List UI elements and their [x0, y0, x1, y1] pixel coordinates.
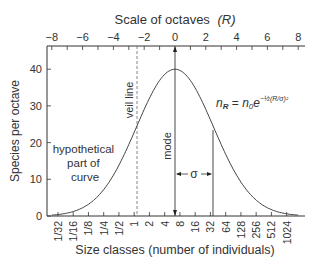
top-axis-title: Scale of octaves (R) [114, 12, 235, 27]
top-tick-label: 2 [203, 31, 209, 43]
bottom-tick-label: 8 [174, 221, 186, 227]
bottom-axis-ticks: 1/321/161/81/41/212481632641282565121024 [52, 212, 293, 244]
y-tick-label: 20 [30, 137, 42, 149]
top-tick-label: −2 [138, 31, 151, 43]
veil-line-label: veil line [123, 82, 135, 119]
bottom-tick-label: 2 [143, 221, 155, 227]
bottom-tick-label: 128 [235, 221, 247, 239]
bottom-tick-label: 1/4 [98, 221, 110, 236]
bottom-tick-label: 32 [204, 221, 216, 233]
bottom-tick-label: 16 [189, 221, 201, 233]
y-axis-ticks: 010203040 [30, 63, 51, 222]
sigma-arrowhead-right-icon [207, 172, 212, 176]
top-tick-label: −8 [46, 31, 59, 43]
bottom-tick-label: 512 [265, 221, 277, 239]
hypothetical-label: hypothetical part of curve [53, 143, 118, 183]
bottom-tick-label: 1/16 [67, 221, 79, 242]
species-abundance-chart: Scale of octaves (R) −8−6−4−202468 1/321… [0, 0, 318, 271]
formula: nR = n0e−½(R/σ)² [216, 95, 289, 111]
y-tick-label: 0 [36, 210, 42, 222]
x-axis-title: Size classes (number of individuals) [75, 243, 274, 257]
y-axis-title: Species per octave [8, 80, 22, 182]
y-tick-label: 40 [30, 63, 42, 75]
y-tick-label: 10 [30, 173, 42, 185]
top-tick-label: 6 [264, 31, 270, 43]
top-tick-label: −4 [107, 31, 120, 43]
mode-arrow-bottom-icon [173, 210, 177, 216]
bottom-tick-label: 4 [159, 221, 171, 227]
mode-arrow-top-icon [173, 46, 177, 52]
top-tick-label: 4 [234, 31, 240, 43]
sigma-arrowhead-left-icon [176, 172, 181, 176]
top-tick-label: 0 [172, 31, 178, 43]
bottom-tick-label: 1024 [281, 221, 293, 245]
bottom-tick-label: 1 [128, 221, 140, 227]
bottom-tick-label: 1/8 [82, 221, 94, 236]
bottom-tick-label: 1/2 [113, 221, 125, 236]
bottom-tick-label: 1/32 [52, 221, 64, 242]
bottom-tick-label: 256 [250, 221, 262, 239]
top-tick-label: 8 [295, 31, 301, 43]
top-axis-ticks: −8−6−4−202468 [46, 31, 302, 50]
mode-label: mode [161, 132, 173, 160]
y-tick-label: 30 [30, 100, 42, 112]
top-tick-label: −6 [76, 31, 89, 43]
bottom-tick-label: 64 [220, 221, 232, 233]
sigma-label: σ [190, 167, 198, 181]
